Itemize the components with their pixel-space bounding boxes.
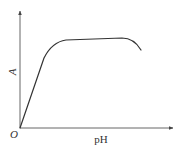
origin-label: O	[10, 128, 18, 140]
chart: A O pH	[0, 0, 185, 154]
x-axis-label: pH	[94, 133, 108, 145]
data-curve	[20, 38, 141, 128]
y-axis-label: A	[6, 68, 18, 76]
